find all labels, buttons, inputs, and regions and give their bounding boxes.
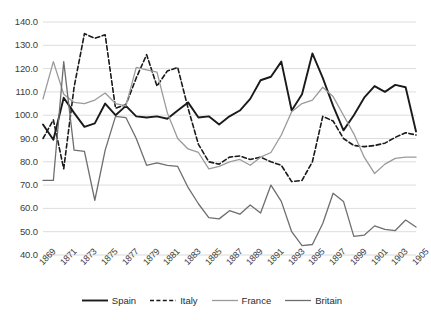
legend-item-italy[interactable]: Italy [150,295,197,306]
legend-label: Italy [180,295,197,306]
legend-item-britain[interactable]: Britain [285,295,342,306]
solid-line-swatch [82,296,108,305]
y-axis-tick-label: 120.0 [0,63,38,74]
legend-item-spain[interactable]: Spain [82,295,136,306]
y-axis-tick-label: 40.0 [0,249,38,260]
solid-line-swatch [285,296,311,305]
series-line-britain [43,62,416,246]
y-axis-tick-label: 90.0 [0,133,38,144]
series-lines [43,34,416,246]
legend-item-france[interactable]: France [212,295,272,306]
solid-line-swatch [212,296,238,305]
gridlines [43,22,416,255]
series-line-italy [43,34,416,182]
legend-label: Britain [315,295,342,306]
y-axis-tick-label: 80.0 [0,156,38,167]
y-axis-tick-label: 50.0 [0,226,38,237]
y-axis-tick-label: 70.0 [0,179,38,190]
y-axis-tick-label: 60.0 [0,202,38,213]
y-axis-tick-label: 140.0 [0,16,38,27]
y-axis-tick-label: 130.0 [0,39,38,50]
chart-legend: SpainItalyFranceBritain [0,291,424,309]
legend-label: France [242,295,272,306]
y-axis-tick-label: 110.0 [0,86,38,97]
legend-label: Spain [112,295,136,306]
y-axis-tick-label: 100.0 [0,109,38,120]
dashed-line-swatch [150,296,176,305]
